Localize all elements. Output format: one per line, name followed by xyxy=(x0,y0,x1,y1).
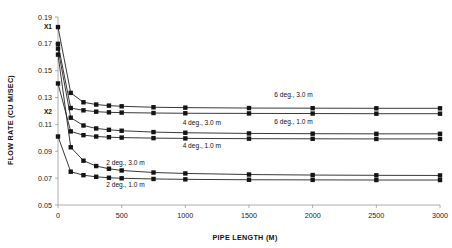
data-point-marker xyxy=(81,100,85,104)
data-point-marker xyxy=(374,137,378,141)
data-point-marker xyxy=(69,145,73,149)
data-point-marker xyxy=(94,102,98,106)
axis-annotation-x2: X2 xyxy=(44,108,52,115)
data-point-marker xyxy=(183,111,187,115)
data-point-marker xyxy=(107,176,111,180)
data-point-marker xyxy=(56,81,60,85)
data-point-marker xyxy=(81,158,85,162)
data-point-marker xyxy=(119,104,123,108)
series-label: 6 deg., 1.0 m xyxy=(274,118,313,126)
x-tick-label: 2500 xyxy=(368,211,384,220)
y-tick-label: 0.09 xyxy=(38,147,52,156)
x-tick-label: 1000 xyxy=(177,211,193,220)
data-point-marker xyxy=(151,136,155,140)
data-point-marker xyxy=(183,171,187,175)
data-point-marker xyxy=(119,110,123,114)
data-point-marker xyxy=(374,178,378,182)
y-tick-label: 0.19 xyxy=(38,13,52,22)
data-point-marker xyxy=(56,52,60,56)
data-point-marker xyxy=(81,133,85,137)
data-point-marker xyxy=(374,111,378,115)
chart-svg: 0.050.070.090.110.130.150.170.19 0500100… xyxy=(0,0,452,248)
x-axis-title: PIPE LENGTH (M) xyxy=(212,233,278,242)
data-point-marker xyxy=(56,134,60,138)
data-point-marker xyxy=(94,134,98,138)
data-point-marker xyxy=(310,173,314,177)
data-point-marker xyxy=(56,42,60,46)
data-point-marker xyxy=(94,109,98,113)
data-point-marker xyxy=(247,172,251,176)
y-tick-label: 0.07 xyxy=(38,174,52,183)
data-point-marker xyxy=(107,110,111,114)
data-point-marker xyxy=(438,178,442,182)
y-tick-label: 0.11 xyxy=(39,120,52,129)
data-point-marker xyxy=(56,25,60,29)
data-point-marker xyxy=(151,111,155,115)
data-point-marker xyxy=(438,106,442,110)
data-point-marker xyxy=(107,103,111,107)
data-point-marker xyxy=(119,176,123,180)
data-point-marker xyxy=(107,135,111,139)
data-point-marker xyxy=(81,108,85,112)
data-point-marker xyxy=(94,164,98,168)
flow-rate-vs-pipe-length-chart: 0.050.070.090.110.130.150.170.19 0500100… xyxy=(0,0,452,248)
data-point-marker xyxy=(438,137,442,141)
data-point-marker xyxy=(151,177,155,181)
data-point-marker xyxy=(81,123,85,127)
data-point-marker xyxy=(151,105,155,109)
data-point-marker xyxy=(107,167,111,171)
data-point-marker xyxy=(438,173,442,177)
data-point-marker xyxy=(310,137,314,141)
data-point-marker xyxy=(119,135,123,139)
data-point-marker xyxy=(310,106,314,110)
data-point-marker xyxy=(183,177,187,181)
data-point-marker xyxy=(310,131,314,135)
x-tick-label: 1500 xyxy=(241,211,257,220)
data-point-marker xyxy=(56,46,60,50)
data-point-marker xyxy=(119,129,123,133)
data-point-marker xyxy=(438,132,442,136)
series-line xyxy=(58,49,440,134)
data-point-marker xyxy=(69,116,73,120)
data-point-marker xyxy=(247,106,251,110)
series-label: 2 deg., 1.0 m xyxy=(106,181,145,189)
x-axis: 050010001500200025003000 xyxy=(56,205,448,220)
data-point-marker xyxy=(81,173,85,177)
data-point-marker xyxy=(69,91,73,95)
x-tick-label: 0 xyxy=(56,211,60,220)
data-point-marker xyxy=(310,178,314,182)
series-1 xyxy=(56,25,442,111)
data-point-marker xyxy=(69,169,73,173)
data-point-marker xyxy=(94,175,98,179)
y-tick-label: 0.15 xyxy=(38,66,52,75)
data-point-marker xyxy=(107,128,111,132)
series-label: 6 deg., 3.0 m xyxy=(274,91,313,99)
series-2 xyxy=(56,42,442,116)
y-tick-label: 0.05 xyxy=(38,201,52,210)
data-point-marker xyxy=(119,168,123,172)
series-label: 4 deg., 3.0 m xyxy=(183,119,222,127)
data-point-marker xyxy=(310,111,314,115)
data-point-marker xyxy=(374,173,378,177)
axis-annotation-x1: X1 xyxy=(44,23,52,30)
x-tick-label: 3000 xyxy=(432,211,448,220)
data-point-marker xyxy=(374,106,378,110)
data-point-marker xyxy=(183,131,187,135)
series-line xyxy=(58,44,440,114)
data-point-marker xyxy=(247,131,251,135)
data-point-marker xyxy=(247,111,251,115)
data-point-marker xyxy=(247,136,251,140)
y-tick-label: 0.17 xyxy=(38,39,52,48)
data-point-marker xyxy=(247,178,251,182)
series-3 xyxy=(56,46,442,136)
data-point-marker xyxy=(183,136,187,140)
data-point-marker xyxy=(374,132,378,136)
data-point-marker xyxy=(438,111,442,115)
data-point-marker xyxy=(151,130,155,134)
x-tick-label: 500 xyxy=(116,211,128,220)
series-label: 4 deg., 1.0 m xyxy=(183,142,222,150)
series-line xyxy=(58,27,440,108)
series-layer: 6 deg., 3.0 m6 deg., 1.0 m4 deg., 3.0 m4… xyxy=(56,25,442,189)
y-axis-title: FLOW RATE (CU M/SEC) xyxy=(6,75,15,165)
data-point-marker xyxy=(94,126,98,130)
